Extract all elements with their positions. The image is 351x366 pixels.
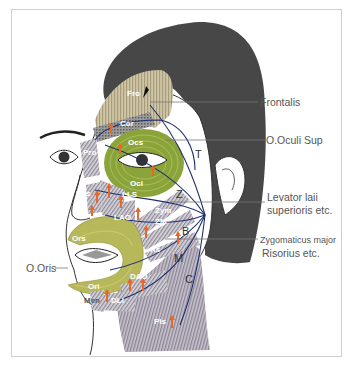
label-nerve-zygomatic: Z [176, 188, 183, 200]
label-dao: DAO [130, 272, 148, 281]
label-nerve-buccal: B [182, 225, 189, 237]
label-ori: Ori [88, 282, 100, 291]
neck-left [90, 306, 93, 355]
label-lls: LLS [122, 190, 138, 199]
label-pro: Pro [83, 148, 96, 157]
callout-o-oculi-sup: O.Oculi Sup [266, 134, 323, 146]
label-rs: Rs [150, 245, 161, 254]
label-zym: Zym [155, 206, 171, 215]
callout-frontalis: Frontalis [260, 96, 300, 108]
label-nerve-mandibular: M [174, 252, 183, 264]
callout-zygomaticus-line1: Zygomaticus major [260, 234, 336, 246]
label-ocs: Ocs [128, 138, 144, 147]
callout-levator-line1: Levator laii [267, 191, 318, 203]
eyebrow-left [40, 132, 85, 138]
label-cor: Cor [120, 119, 134, 128]
callout-zygomaticus-line2: Risorius etc. [262, 247, 320, 259]
face-diagram: Fro Cor Pro Ocs Oci Nas LLS LAO Zym ZM O… [0, 0, 351, 366]
label-dli: DLI [111, 296, 124, 305]
label-fro: Fro [127, 89, 140, 98]
label-men: Men [84, 296, 100, 305]
label-zm: ZM [155, 217, 167, 226]
label-nas: Nas [76, 189, 91, 198]
label-pls: Pls [154, 317, 167, 326]
callout-o-oris: O.Oris [26, 262, 56, 274]
label-lao: LAO [114, 213, 131, 222]
label-nerve-cervical: C [185, 273, 193, 285]
callout-levator-line2: superioris etc. [267, 204, 332, 216]
label-ors: Ors [72, 234, 86, 243]
label-nerve-temporal: T [195, 148, 202, 160]
label-oci: Oci [130, 179, 143, 188]
